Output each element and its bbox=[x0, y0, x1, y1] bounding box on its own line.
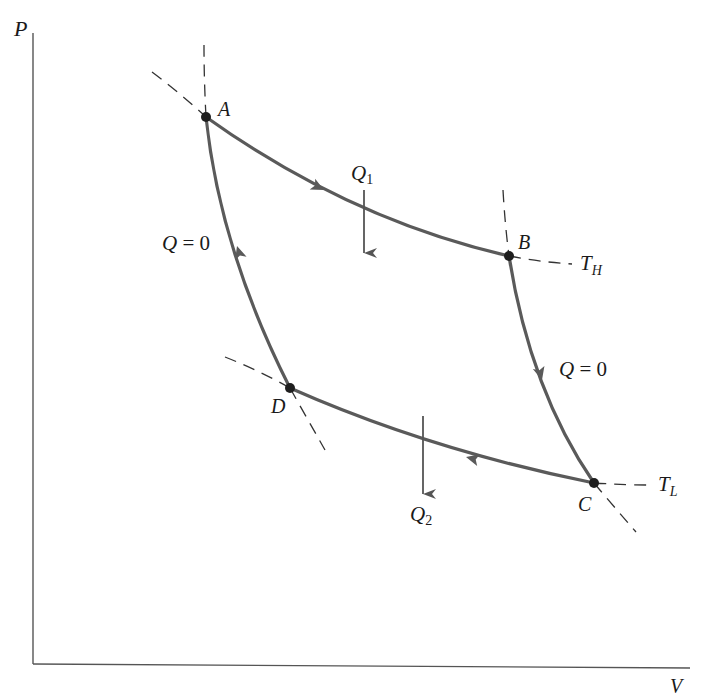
process-a-to-b bbox=[206, 117, 509, 256]
label-a: A bbox=[216, 98, 231, 120]
cycle-processes bbox=[206, 117, 594, 483]
isotherm-th-extension bbox=[509, 256, 572, 264]
annotation-labels: Q1 Q2 TH TL Q = 0 Q = 0 bbox=[162, 161, 678, 528]
label-adiabat-right: Q = 0 bbox=[559, 357, 607, 381]
label-tl: TL bbox=[658, 472, 678, 499]
isotherm-extension-d bbox=[225, 357, 290, 388]
pv-diagram: P V bbox=[0, 0, 706, 697]
process-d-to-a bbox=[206, 117, 290, 388]
point-a bbox=[201, 112, 211, 122]
adiabat-extension-b bbox=[503, 190, 509, 256]
label-th: TH bbox=[580, 251, 603, 278]
adiabat-extension-c bbox=[594, 483, 636, 532]
label-q2: Q2 bbox=[410, 502, 432, 528]
direction-arrows bbox=[231, 179, 548, 466]
point-d bbox=[285, 383, 295, 393]
point-c bbox=[589, 478, 599, 488]
point-b bbox=[504, 251, 514, 261]
label-c: C bbox=[578, 493, 592, 515]
label-d: D bbox=[270, 395, 286, 417]
label-b: B bbox=[518, 231, 530, 253]
heat-arrows bbox=[364, 190, 423, 494]
label-q1: Q1 bbox=[351, 161, 373, 187]
adiabat-extension-a bbox=[204, 45, 206, 117]
label-adiabat-left: Q = 0 bbox=[162, 231, 210, 255]
isotherm-extension-a bbox=[152, 72, 206, 117]
isotherm-tl-extension bbox=[594, 483, 652, 485]
y-axis-label: P bbox=[13, 16, 27, 41]
x-axis bbox=[33, 664, 690, 668]
x-axis-label: V bbox=[670, 675, 685, 697]
